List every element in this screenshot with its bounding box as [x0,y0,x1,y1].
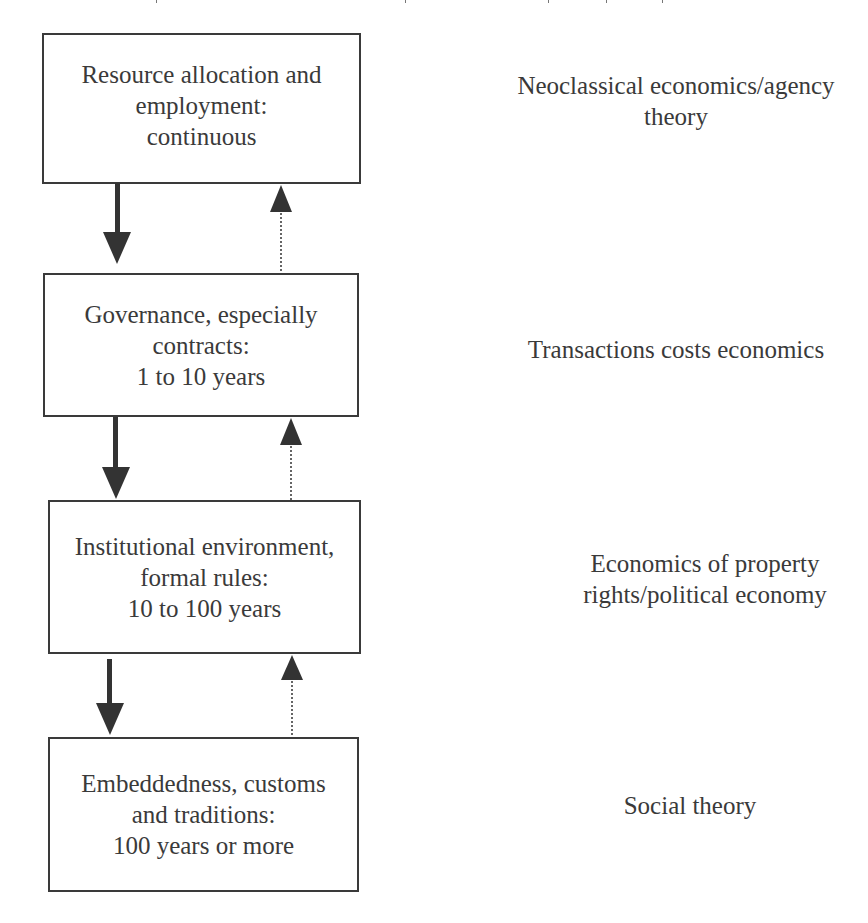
level-4-line-3: 100 years or more [113,830,294,861]
theory-label-line: rights/political economy [540,579,868,610]
dotted-up-arrow-icon [270,185,292,271]
solid-down-arrow-icon [96,659,124,735]
level-box-institutional-environment: Institutional environment, formal rules:… [48,500,361,654]
level-box-embeddedness: Embeddedness, customs and traditions: 10… [48,737,359,892]
level-2-line-3: 1 to 10 years [137,361,265,392]
theory-label-line: theory [498,101,854,132]
theory-label-line: Transactions costs economics [498,334,854,365]
level-1-line-1: Resource allocation and [81,59,321,90]
level-4-line-2: and traditions: [132,799,276,830]
level-3-line-2: formal rules: [140,562,268,593]
clipped-caption [150,0,710,3]
theory-label-transaction-costs: Transactions costs economics [498,334,854,365]
theory-label-property-rights: Economics of property rights/political e… [540,548,868,610]
dotted-up-arrow-icon [281,655,303,737]
theory-label-line: Economics of property [540,548,868,579]
solid-down-arrow-icon [102,417,130,499]
theory-label-line: Neoclassical economics/agency [498,70,854,101]
solid-down-arrow-icon [103,183,131,264]
level-2-line-1: Governance, especially [84,299,317,330]
level-2-line-2: contracts: [152,330,249,361]
level-box-resource-allocation: Resource allocation and employment: cont… [42,33,361,184]
level-1-line-3: continuous [147,121,257,152]
theory-label-line: Social theory [560,790,820,821]
theory-label-social-theory: Social theory [560,790,820,821]
dotted-up-arrow-icon [280,418,302,500]
level-3-line-3: 10 to 100 years [128,593,281,624]
theory-label-neoclassical: Neoclassical economics/agency theory [498,70,854,132]
level-4-line-1: Embeddedness, customs [81,768,325,799]
level-3-line-1: Institutional environment, [75,531,335,562]
level-box-governance: Governance, especially contracts: 1 to 1… [43,273,359,417]
level-1-line-2: employment: [136,90,268,121]
